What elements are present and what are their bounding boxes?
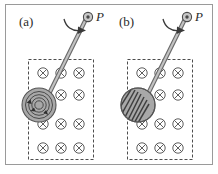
panel-a-solid-disk bbox=[22, 88, 56, 122]
magnetic-field-into-page-icon bbox=[56, 143, 66, 153]
magnetic-field-into-page-icon bbox=[56, 119, 66, 129]
panel-b-pivot-label: P bbox=[194, 9, 203, 24]
magnetic-field-into-page-icon bbox=[137, 143, 147, 153]
magnetic-field-into-page-icon bbox=[173, 119, 183, 129]
magnetic-field-into-page-icon bbox=[74, 90, 84, 100]
magnetic-field-into-page-icon bbox=[155, 90, 165, 100]
magnetic-field-into-page-icon bbox=[173, 90, 183, 100]
panel-a-label: (a) bbox=[19, 14, 33, 29]
magnetic-field-into-page-icon bbox=[56, 90, 66, 100]
physics-figure: (a) bbox=[0, 0, 218, 174]
magnetic-field-into-page-icon bbox=[38, 143, 48, 153]
eddy-current-diagram-svg: (a) bbox=[0, 0, 218, 174]
magnetic-field-into-page-icon bbox=[155, 143, 165, 153]
magnetic-field-into-page-icon bbox=[155, 119, 165, 129]
panel-a-pivot-label: P bbox=[95, 9, 104, 24]
panel-a-pivot bbox=[83, 12, 92, 21]
magnetic-field-into-page-icon bbox=[74, 143, 84, 153]
magnetic-field-into-page-icon bbox=[38, 68, 48, 78]
magnetic-field-into-page-icon bbox=[173, 68, 183, 78]
panel-b-label: (b) bbox=[119, 14, 134, 29]
magnetic-field-into-page-icon bbox=[74, 119, 84, 129]
magnetic-field-into-page-icon bbox=[137, 68, 147, 78]
panel-b-pivot bbox=[182, 12, 191, 21]
magnetic-field-into-page-icon bbox=[74, 68, 84, 78]
magnetic-field-into-page-icon bbox=[173, 143, 183, 153]
